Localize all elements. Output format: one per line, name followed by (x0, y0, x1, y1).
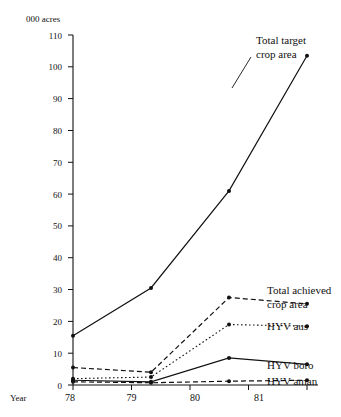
y-tick-60: 60 (53, 190, 63, 200)
annotation-total-target-line2: crop area (256, 48, 297, 60)
data-point (149, 375, 153, 379)
y-tick-40: 40 (53, 253, 63, 263)
data-point (149, 370, 153, 374)
data-point (71, 380, 75, 384)
x-tick-81: 81 (254, 392, 264, 403)
annotation-total-target-line1: Total target (256, 34, 306, 46)
y-unit-label: 000 acres (26, 14, 61, 24)
data-point (71, 334, 75, 338)
data-point (149, 381, 153, 385)
annotation-total-achieved-line1: Total achieved (267, 284, 332, 296)
x-tick-79: 79 (127, 392, 137, 403)
y-axis-ticks (68, 35, 73, 385)
data-point (227, 379, 231, 383)
y-tick-70: 70 (53, 158, 63, 168)
annotation-hyv-aus: HYV aus (267, 320, 308, 332)
data-point (305, 54, 309, 58)
x-tick-80: 80 (190, 392, 200, 403)
y-tick-0: 0 (58, 381, 63, 391)
y-tick-20: 20 (53, 317, 63, 327)
leader-total-target (232, 57, 251, 88)
y-tick-100: 100 (49, 62, 63, 72)
chart-container: 000 acres 110 100 90 80 70 60 50 40 30 (0, 0, 341, 417)
y-tick-10: 10 (53, 349, 63, 359)
data-point (227, 189, 231, 193)
y-tick-30: 30 (53, 285, 63, 295)
y-tick-80: 80 (53, 126, 63, 136)
data-point (149, 286, 153, 290)
data-point (227, 323, 231, 327)
data-point (71, 366, 75, 370)
y-tick-90: 90 (53, 94, 63, 104)
plot-layer (71, 54, 309, 385)
data-point (227, 296, 231, 300)
annotation-hyv-aman: HYV aman (267, 375, 318, 387)
annotation-total-achieved-line2: crop area (267, 298, 308, 310)
data-point (227, 356, 231, 360)
line-chart: 000 acres 110 100 90 80 70 60 50 40 30 (0, 0, 341, 417)
x-axis-name: Year (10, 393, 27, 403)
x-tick-78: 78 (65, 392, 75, 403)
y-tick-50: 50 (53, 221, 63, 231)
y-tick-110: 110 (49, 31, 63, 41)
annotation-hyv-boro: HYV boro (267, 359, 314, 371)
